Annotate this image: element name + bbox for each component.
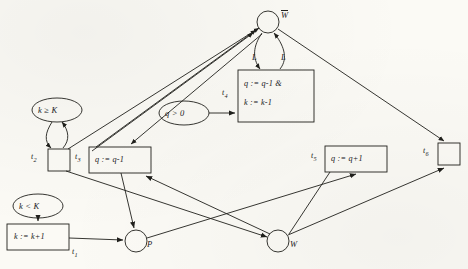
arc-w-bar-to-t4 bbox=[255, 33, 262, 69]
place-w-bar bbox=[257, 11, 279, 33]
arc-t3-to-w-bar-b bbox=[92, 33, 253, 151]
arc-place-w-to-t6 bbox=[288, 168, 444, 235]
transition-t4-label: t4 bbox=[222, 89, 228, 99]
petri-net-canvas bbox=[0, 0, 468, 269]
place-p-label: P bbox=[147, 240, 152, 249]
place-w-bar-label: W bbox=[281, 11, 288, 20]
arc-t2-to-place-w bbox=[66, 171, 267, 237]
transition-t6-label: t6 bbox=[423, 147, 429, 157]
diagram-page: k ≥ K q > 0 k < K W P W L L k := k+1 q :… bbox=[0, 0, 468, 269]
arc-t2-to-guard-kgeK bbox=[62, 122, 68, 148]
arc-place-w-to-t3 bbox=[146, 176, 270, 234]
place-p bbox=[125, 230, 147, 252]
arc-label-L-left: L bbox=[252, 53, 257, 62]
place-w bbox=[267, 230, 289, 252]
arc-t1-to-place-p bbox=[69, 238, 123, 240]
arc-t5-to-place-w bbox=[289, 172, 330, 234]
transition-t2-box bbox=[48, 149, 70, 171]
transition-t6-box bbox=[438, 143, 460, 165]
transition-t1-action: k := k+1 bbox=[14, 233, 45, 241]
arc-t3-to-place-p bbox=[121, 173, 134, 228]
transition-t4-box bbox=[238, 70, 314, 122]
transition-t3-label: t3 bbox=[75, 153, 81, 163]
transition-t5-label: t5 bbox=[311, 152, 317, 162]
transition-t4-action-line1: q := q-1 & bbox=[244, 80, 282, 88]
guard-k-ge-K-label: k ≥ K bbox=[38, 106, 57, 115]
transition-t1-label: t1 bbox=[72, 248, 78, 258]
transition-t2-label: t2 bbox=[31, 153, 37, 163]
transition-t4-action-line2: k := k-1 bbox=[244, 99, 272, 107]
arc-t3-to-w-bar-a bbox=[96, 30, 256, 147]
transition-t3-action: q := q-1 bbox=[95, 156, 124, 164]
arc-label-L-right: L bbox=[281, 53, 286, 62]
arc-t4-to-w-bar bbox=[274, 33, 284, 69]
arc-t2-to-w-bar bbox=[68, 28, 259, 149]
arc-place-p-to-t5 bbox=[147, 174, 356, 238]
transition-t5-action: q := q+1 bbox=[331, 155, 363, 163]
place-w-label: W bbox=[290, 240, 297, 249]
guard-q-gt-0-label: q > 0 bbox=[165, 109, 185, 118]
guard-k-lt-K-label: k < K bbox=[19, 202, 39, 211]
arc-guard-kgeK-to-t2 bbox=[46, 122, 52, 148]
